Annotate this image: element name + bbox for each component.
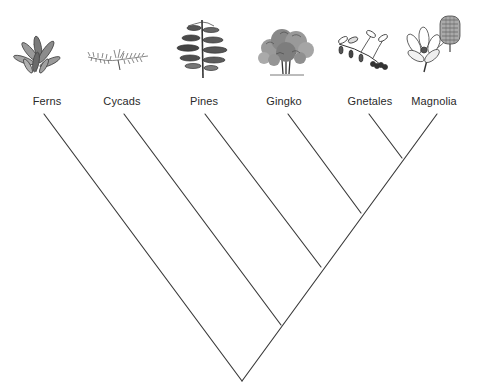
magnolia-flower-icon bbox=[404, 16, 460, 72]
label-gnetales: Gnetales bbox=[348, 95, 393, 107]
branch-gnetales bbox=[369, 114, 402, 158]
gingko-tree-icon bbox=[258, 29, 314, 75]
branch-gingko bbox=[288, 114, 361, 213]
branch-ferns bbox=[44, 114, 242, 381]
label-gingko: Gingko bbox=[266, 95, 301, 107]
branch-pines bbox=[205, 114, 321, 267]
label-cycads: Cycads bbox=[103, 95, 140, 107]
label-pines: Pines bbox=[190, 95, 218, 107]
fern-plant-icon bbox=[13, 36, 62, 75]
gnetales-branch-icon bbox=[337, 29, 388, 69]
tree-branches bbox=[44, 114, 437, 381]
cladogram bbox=[0, 0, 482, 390]
pine-tree-icon bbox=[177, 20, 227, 78]
branch-spine bbox=[242, 114, 437, 381]
branch-cycads bbox=[124, 114, 281, 325]
cycad-frond-icon bbox=[88, 49, 148, 70]
label-magnolia: Magnolia bbox=[411, 95, 456, 107]
label-ferns: Ferns bbox=[33, 95, 62, 107]
